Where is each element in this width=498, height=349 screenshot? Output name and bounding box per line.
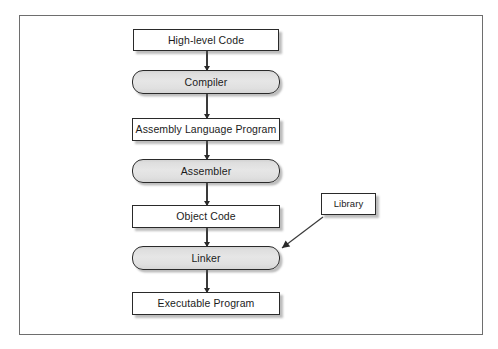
node-linker[interactable]: Linker [132,246,280,270]
arrow-assembly-language-program-to-assembler [206,141,208,159]
arrow-linker-to-executable-program [206,270,208,292]
node-assembler[interactable]: Assembler [132,159,280,183]
node-compiler[interactable]: Compiler [132,70,280,94]
node-label-assembler: Assembler [181,166,232,177]
arrow-object-code-to-linker [206,228,208,246]
arrow-compiler-to-assembly-language-program [206,94,208,118]
node-label-linker: Linker [191,253,220,264]
node-label-object-code: Object Code [176,211,235,222]
node-high-level-code[interactable]: High-level Code [133,29,279,51]
arrow-assembler-to-object-code [206,183,208,205]
node-label-library: Library [334,199,364,209]
diagram-frame: High-level Code Compiler Assembly Langua… [19,15,483,335]
node-label-compiler: Compiler [185,77,228,88]
node-library[interactable]: Library [321,193,376,215]
node-object-code[interactable]: Object Code [132,205,280,228]
node-label-executable-program: Executable Program [158,298,255,309]
arrow-high-level-code-to-compiler [206,51,208,70]
node-executable-program[interactable]: Executable Program [132,292,280,315]
node-assembly-language-program[interactable]: Assembly Language Program [132,118,280,141]
node-label-high-level-code: High-level Code [168,35,244,46]
node-label-assembly-language-program: Assembly Language Program [136,124,277,135]
